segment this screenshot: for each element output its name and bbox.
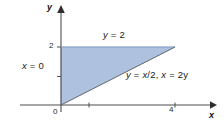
y-tick-label-2: 2 bbox=[49, 42, 54, 50]
origin-label: 0 bbox=[53, 108, 58, 116]
annotation-top-boundary: y = 2 bbox=[103, 30, 125, 40]
math-figure: y x 2 0 4 y = 2 x = 0 y = x/2, x = 2y bbox=[0, 0, 224, 127]
y-axis-arrowhead bbox=[57, 5, 65, 13]
x-tick-label-4: 4 bbox=[169, 106, 174, 114]
annotation-diagonal-boundary: y = x/2, x = 2y bbox=[126, 70, 188, 80]
x-axis-label: x bbox=[209, 111, 214, 120]
x-axis-arrowhead bbox=[210, 101, 217, 109]
y-axis-label: y bbox=[47, 3, 52, 12]
annotation-left-boundary: x = 0 bbox=[22, 61, 44, 71]
